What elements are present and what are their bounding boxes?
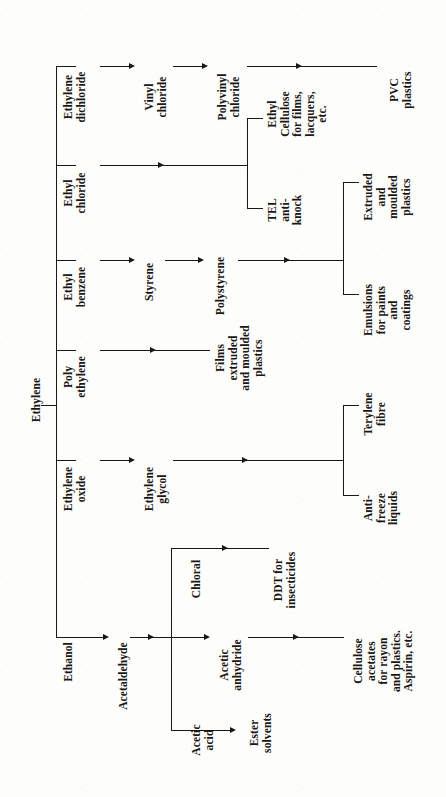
node-pvc-plastics: PVC plastics	[388, 62, 413, 118]
arrowhead-ethylchloride	[158, 162, 164, 168]
split-bar-glycol	[343, 405, 344, 496]
edge-aceticacid-to-ester	[187, 730, 233, 731]
node-ethylene-dichloride: Ethylene dichloride	[62, 62, 87, 132]
split-arm-tel	[247, 208, 263, 209]
node-acetaldehyde: Acetaldehyde	[117, 634, 130, 718]
node-ester-solvents: Ester solvents	[248, 696, 273, 770]
arrowhead-acetaldehyde-to-split	[148, 634, 154, 640]
split-arm-antifreeze	[343, 495, 359, 496]
node-extruded-moulded-plastics: Extruded and moulded plastics	[362, 149, 412, 245]
node-antifreeze-liquids: Anti- freeze liquids	[362, 468, 400, 548]
edge-glycol-to-split	[173, 460, 344, 461]
node-polyvinyl-chloride: Polyvinyl chloride	[216, 62, 241, 132]
node-ethylene-root: Ethylene	[30, 368, 43, 432]
arrowhead-polyethylene-to-films	[150, 347, 156, 353]
edge-styrene-to-polystyrene	[165, 260, 201, 261]
edge-eo-to-glycol	[100, 460, 132, 461]
node-emulsions-paints: Emulsions for paints and coatings	[362, 262, 412, 358]
split-arm-chloral	[171, 548, 187, 549]
node-ethylene-oxide: Ethylene oxide	[62, 454, 87, 524]
node-chloral: Chloral	[190, 550, 203, 608]
arrowhead-styrene-to-polystyrene	[198, 257, 204, 263]
node-ethyl-chloride: Ethyl chloride	[62, 158, 87, 228]
arrowhead-ethanol-to-acetaldehyde	[103, 634, 109, 640]
split-arm-acetic-acid	[171, 730, 187, 731]
arrowhead-polystyrene-to-split	[284, 257, 290, 263]
edge-ethanol-to-acetaldehyde	[76, 637, 106, 638]
edge-ethylbenzene-to-styrene	[100, 260, 132, 261]
edge-vinyl-to-pvcresin	[173, 66, 205, 67]
split-arm-emulsions	[343, 294, 359, 295]
node-acetic-anhydride: Acetic anhydride	[218, 630, 243, 700]
split-arm-ethyl-cellulose	[247, 118, 263, 119]
node-acetic-acid: Acetic acid	[190, 712, 215, 768]
node-cellulose-acetates: Cellulose acetates for rayon and plastic…	[352, 600, 415, 722]
node-films-extruded-moulded: Films extruded and moulded plastics	[214, 296, 264, 420]
node-ethylene-glycol: Ethylene glycol	[143, 454, 168, 524]
trunk-spine	[56, 66, 57, 638]
split-bar-acetaldehyde	[171, 548, 172, 731]
arrowhead-vinyl-to-pvcresin	[202, 63, 208, 69]
arrowhead-eo-to-glycol	[129, 457, 135, 463]
arrowhead-anhydride-to-cellulose	[293, 634, 299, 640]
arrowhead-glycol-to-split	[242, 457, 248, 463]
flowchart-canvas: Ethylene Ethylene dichloride Vinyl chlor…	[0, 0, 446, 797]
edge-polystyrene-to-split	[238, 260, 344, 261]
edge-edc-to-vinyl	[100, 66, 132, 67]
edge-chloral-to-ddt	[187, 548, 269, 549]
node-styrene: Styrene	[143, 252, 156, 312]
arrowhead-ethylbenzene-to-styrene	[129, 257, 135, 263]
node-ethyl-benzene: Ethyl benzene	[62, 252, 87, 322]
node-vinyl-chloride: Vinyl chloride	[143, 62, 168, 132]
root-stub	[41, 405, 57, 406]
split-bar-polystyrene	[343, 182, 344, 295]
node-tel-anti-knock: TEL anti- knock	[266, 162, 304, 258]
arrowhead-edc-to-vinyl	[129, 63, 135, 69]
split-arm-terylene	[343, 405, 359, 406]
node-ethanol: Ethanol	[62, 634, 75, 690]
edge-split-to-anhydride	[171, 637, 207, 638]
arrowhead-split-to-anhydride	[204, 634, 210, 640]
node-ddt-insecticides: DDT for insecticides	[272, 532, 297, 628]
edge-ethylchloride-to-split	[100, 165, 248, 166]
arrowhead-aceticacid-to-ester	[230, 727, 236, 733]
node-ethyl-cellulose: Ethyl Cellulose for films, lacquers, etc…	[266, 60, 329, 168]
node-poly-ethylene: Poly ethylene	[62, 342, 87, 412]
split-arm-extruded-moulded	[343, 182, 359, 183]
split-bar-ethyl-chloride	[247, 118, 248, 209]
node-terylene-fibre: Terylene fibre	[362, 378, 387, 450]
arrowhead-chloral-to-ddt	[222, 545, 228, 551]
